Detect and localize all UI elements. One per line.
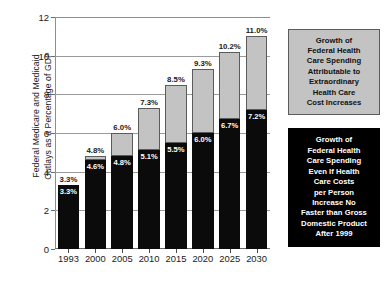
x-tick-label-2015: 2015	[166, 253, 187, 264]
bar-segment-extraordinary	[219, 52, 241, 120]
bar-segment-baseline: 7.2%	[246, 110, 268, 249]
bar-segment-extraordinary	[246, 36, 268, 109]
bar-label-total: 8.5%	[167, 75, 185, 84]
y-tick-mark	[51, 249, 55, 250]
x-tick-label-2000: 2000	[85, 253, 106, 264]
bar-2030: 7.2%11.0%	[246, 36, 268, 249]
x-tick-label-2005: 2005	[112, 253, 133, 264]
x-tick-label-2025: 2025	[219, 253, 240, 264]
bar-label-total: 3.3%	[60, 175, 78, 184]
bar-label-total: 4.8%	[86, 146, 104, 155]
bar-2025: 6.7%10.2%	[219, 52, 241, 249]
legend-baseline-growth: Growth of Federal Health Care Spending E…	[288, 128, 380, 247]
bar-segment-baseline: 5.1%	[138, 150, 160, 249]
bar-label-baseline: 3.3%	[58, 187, 80, 196]
y-tick-mark	[51, 94, 55, 95]
bar-label-total: 10.2%	[219, 42, 241, 51]
bar-2000: 4.6%4.8%	[85, 156, 107, 249]
x-tick-label-2020: 2020	[192, 253, 213, 264]
bar-2010: 5.1%7.3%	[138, 108, 160, 249]
y-tick-label: 12	[38, 12, 49, 23]
bar-label-baseline: 5.5%	[165, 145, 187, 154]
y-axis-title: Federal Medicare and Medicaid Outlays as…	[30, 16, 54, 216]
bar-label-total: 7.3%	[140, 98, 158, 107]
x-tick-label-2030: 2030	[246, 253, 267, 264]
y-tick-mark	[51, 17, 55, 18]
bar-label-baseline: 5.1%	[138, 152, 160, 161]
x-tick-label-1993: 1993	[58, 253, 79, 264]
bar-segment-baseline: 6.0%	[192, 133, 214, 249]
legend-extraordinary-growth: Growth of Federal Health Care Spending A…	[288, 29, 380, 115]
x-tick-label-2010: 2010	[139, 253, 160, 264]
plot-area: 024681012 199320002005201020152020202520…	[55, 17, 270, 249]
bar-label-total: 11.0%	[246, 26, 268, 35]
bar-label-baseline: 6.0%	[192, 135, 214, 144]
y-tick-mark	[51, 133, 55, 134]
bar-segment-baseline: 5.5%	[165, 143, 187, 249]
bar-label-baseline: 6.7%	[219, 121, 241, 130]
bar-segment-extraordinary	[192, 69, 214, 133]
bar-segment-baseline: 6.7%	[219, 119, 241, 249]
bar-label-total: 9.3%	[194, 59, 212, 68]
bar-segment-extraordinary	[165, 85, 187, 143]
bar-segment-extraordinary	[138, 108, 160, 151]
bar-segment-baseline: 4.8%	[111, 156, 133, 249]
bar-segment-extraordinary	[111, 133, 133, 156]
bar-label-baseline: 7.2%	[246, 112, 268, 121]
bar-label-baseline: 4.6%	[85, 162, 107, 171]
bar-segment-baseline: 3.3%	[58, 185, 80, 249]
y-tick-mark	[51, 210, 55, 211]
y-tick-label: 4	[44, 166, 49, 177]
bar-2020: 6.0%9.3%	[192, 69, 214, 249]
y-tick-label: 6	[44, 128, 49, 139]
y-tick-label: 0	[44, 244, 49, 255]
y-tick-label: 2	[44, 205, 49, 216]
bar-label-total: 6.0%	[113, 123, 131, 132]
bar-segment-baseline: 4.6%	[85, 160, 107, 249]
bar-2015: 5.5%8.5%	[165, 85, 187, 249]
bar-label-baseline: 4.8%	[111, 158, 133, 167]
bar-1993: 3.3%3.3%	[58, 185, 80, 249]
y-tick-mark	[51, 172, 55, 173]
chart-figure: Federal Medicare and Medicaid Outlays as…	[0, 0, 385, 286]
y-tick-mark	[51, 56, 55, 57]
y-tick-label: 10	[38, 50, 49, 61]
bar-2005: 4.8%6.0%	[111, 133, 133, 249]
y-tick-label: 8	[44, 89, 49, 100]
